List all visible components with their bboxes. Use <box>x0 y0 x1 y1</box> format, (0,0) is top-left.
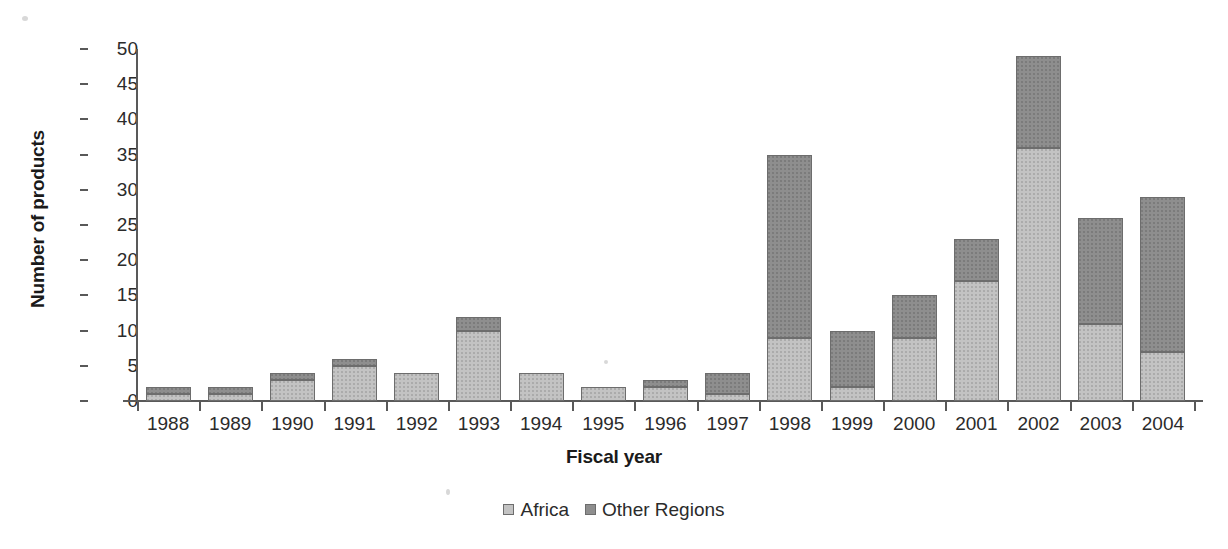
y-axis-tick-mark <box>80 294 88 296</box>
x-axis-tick-mark <box>821 402 823 411</box>
bar-segment-other-regions <box>705 373 750 394</box>
x-axis-title: Fiscal year <box>0 446 1228 468</box>
y-axis-tick-mark <box>80 83 88 85</box>
x-axis-tick-mark <box>1132 402 1134 411</box>
bar-segment-other-regions <box>643 380 688 387</box>
bar-segment-africa <box>1078 324 1123 401</box>
x-axis-tick-label: 2004 <box>1123 414 1203 433</box>
x-axis-tick-mark <box>1194 402 1196 411</box>
y-axis-tick-label: 30 <box>92 180 138 199</box>
x-axis-tick-mark <box>1007 402 1009 411</box>
bar-segment-africa <box>767 338 812 401</box>
bar-segment-other-regions <box>830 331 875 387</box>
bar-segment-africa <box>146 394 191 401</box>
bar-column <box>394 373 439 401</box>
x-axis-tick-labels: 1988198919901991199219931994199519961997… <box>137 414 1194 444</box>
bar-column <box>208 387 253 401</box>
y-axis-tick-mark <box>80 48 88 50</box>
legend-item[interactable]: Other Regions <box>585 500 725 519</box>
y-axis-tick-mark <box>80 154 88 156</box>
bar-column <box>1140 197 1185 401</box>
bar-segment-africa <box>208 394 253 401</box>
x-axis-tick-mark <box>634 402 636 411</box>
y-axis-tick-label: 50 <box>92 39 138 58</box>
y-axis-tick-mark <box>80 330 88 332</box>
bar-segment-africa <box>892 338 937 401</box>
y-axis: 05101520253035404550 <box>80 49 138 402</box>
bar-column <box>1078 218 1123 401</box>
x-axis-tick-mark <box>759 402 761 411</box>
x-axis-tick-mark <box>261 402 263 411</box>
bar-column <box>643 380 688 401</box>
legend-item[interactable]: Africa <box>503 500 569 519</box>
bar-column <box>705 373 750 401</box>
y-axis-title: Number of products <box>27 119 49 319</box>
bar-column <box>270 373 315 401</box>
bar-segment-africa <box>1016 148 1061 401</box>
bar-column <box>954 239 999 401</box>
bar-segment-other-regions <box>892 295 937 337</box>
y-axis-tick-mark <box>80 365 88 367</box>
y-axis-tick-label: 15 <box>92 285 138 304</box>
bar-segment-africa <box>1140 352 1185 401</box>
y-axis-tick-label: 25 <box>92 215 138 234</box>
x-axis-tick-mark <box>324 402 326 411</box>
bar-segment-other-regions <box>332 359 377 366</box>
y-axis-tick-label: 5 <box>92 356 138 375</box>
chart-legend: AfricaOther Regions <box>0 500 1228 519</box>
bar-segment-africa <box>581 387 626 401</box>
legend-swatch-africa <box>503 504 514 515</box>
x-axis-tick-mark <box>199 402 201 411</box>
legend-item-label: Africa <box>520 500 569 519</box>
bar-segment-other-regions <box>270 373 315 380</box>
bar-column <box>519 373 564 401</box>
x-axis-tick-mark <box>945 402 947 411</box>
y-axis-tick-mark <box>80 400 88 402</box>
stacked-bar-chart: Number of products 05101520253035404550 … <box>0 0 1228 549</box>
bar-segment-africa <box>270 380 315 401</box>
x-axis-tick-mark <box>386 402 388 411</box>
legend-item-label: Other Regions <box>602 500 725 519</box>
bar-segment-other-regions <box>208 387 253 394</box>
bar-column <box>146 387 191 401</box>
y-axis-tick-mark <box>80 189 88 191</box>
y-axis-tick-label: 45 <box>92 74 138 93</box>
x-axis-tick-mark <box>137 402 139 411</box>
bars-layer <box>137 49 1194 401</box>
y-axis-tick-label: 40 <box>92 109 138 128</box>
bar-segment-other-regions <box>146 387 191 394</box>
x-axis-tick-mark <box>448 402 450 411</box>
bar-segment-other-regions <box>456 317 501 331</box>
bar-segment-other-regions <box>1078 218 1123 324</box>
scan-speck <box>22 16 28 21</box>
bar-segment-other-regions <box>767 155 812 338</box>
scan-speck <box>604 360 608 364</box>
bar-segment-africa <box>456 331 501 401</box>
bar-column <box>581 387 626 401</box>
x-axis-tick-mark <box>883 402 885 411</box>
x-axis-tick-mark <box>1070 402 1072 411</box>
y-axis-tick-mark <box>80 118 88 120</box>
x-axis-tick-mark <box>697 402 699 411</box>
bar-segment-africa <box>830 387 875 401</box>
bar-segment-africa <box>332 366 377 401</box>
bar-column <box>456 317 501 401</box>
scan-speck <box>446 489 450 495</box>
legend-swatch-other-regions <box>585 504 596 515</box>
bar-segment-africa <box>519 373 564 401</box>
bar-column <box>892 295 937 401</box>
bar-segment-africa <box>954 281 999 401</box>
bar-segment-africa <box>643 387 688 401</box>
bar-segment-africa <box>394 373 439 401</box>
x-axis-tick-mark <box>572 402 574 411</box>
bar-segment-other-regions <box>1016 56 1061 148</box>
bar-segment-other-regions <box>1140 197 1185 352</box>
bar-column <box>332 359 377 401</box>
y-axis-tick-label: 10 <box>92 321 138 340</box>
y-axis-tick-label: 20 <box>92 250 138 269</box>
y-axis-tick-label: 35 <box>92 145 138 164</box>
y-axis-tick-mark <box>80 224 88 226</box>
bar-column <box>830 331 875 401</box>
bar-column <box>1016 56 1061 401</box>
bar-segment-other-regions <box>954 239 999 281</box>
